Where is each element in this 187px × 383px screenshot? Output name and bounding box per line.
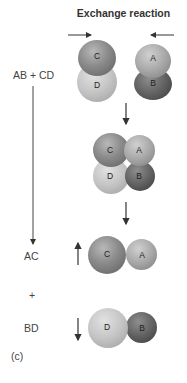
atom-b-label: B — [139, 323, 145, 333]
plus-sign: + — [29, 289, 35, 301]
atom-d-label: D — [94, 80, 100, 90]
atom-a-label: A — [139, 250, 145, 260]
product-ac-label: AC — [24, 250, 39, 262]
atom-a-label: A — [150, 53, 156, 63]
atom-c-label: C — [104, 249, 110, 259]
atom-a-label: A — [136, 145, 142, 155]
reactants-label: AB + CD — [13, 69, 54, 81]
atom-b-label: B — [150, 78, 156, 88]
diagram-title: Exchange reaction — [60, 7, 187, 19]
atom-d-label: D — [107, 171, 113, 181]
atom-c-label: C — [107, 145, 113, 155]
atom-b-label: B — [136, 171, 142, 181]
atom-d-label: D — [104, 322, 110, 332]
panel-label: (c) — [11, 350, 23, 362]
product-bd-label: BD — [24, 322, 39, 334]
atom-c-label: C — [94, 51, 100, 61]
